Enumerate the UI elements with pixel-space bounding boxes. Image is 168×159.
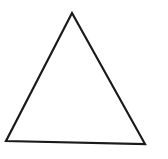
figure-canvas [0, 0, 168, 159]
triangle-figure [0, 0, 168, 159]
